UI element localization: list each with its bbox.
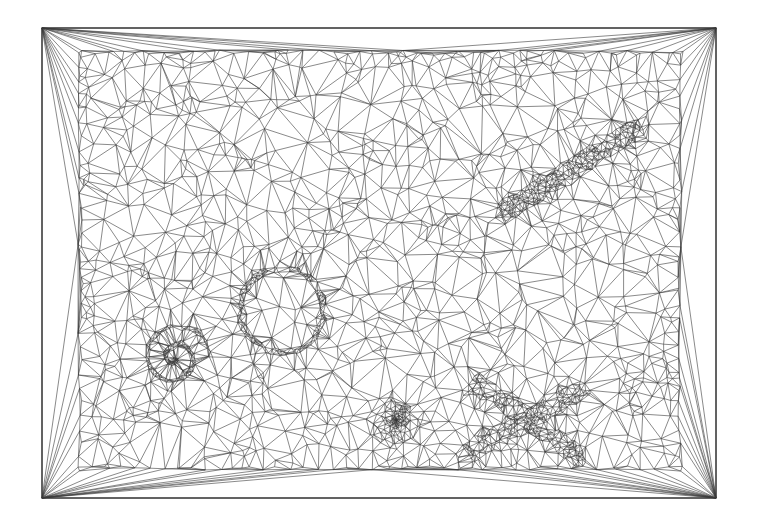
- mesh-edges: [42, 28, 716, 498]
- outer-frame: [42, 28, 716, 498]
- triangle-edges: [42, 28, 716, 498]
- triangulation-mesh: [0, 0, 757, 530]
